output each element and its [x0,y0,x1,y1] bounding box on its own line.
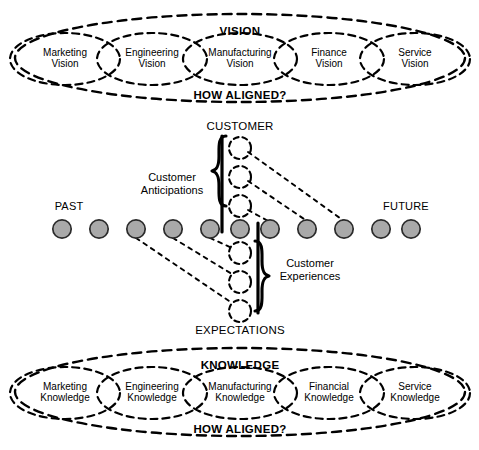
anticipation-node-3[interactable] [229,195,251,217]
timeline-node-9[interactable] [335,220,353,238]
experience-node-1[interactable] [229,242,251,264]
customer-anticipations-line1: Customer [148,171,196,183]
vision-node-label-finance: Finance Vision [311,48,347,70]
customer-anticipations-label: Customer Anticipations [141,171,203,196]
experience-node-3[interactable] [229,300,251,322]
anticipation-connector-1 [248,152,344,221]
vision-how-aligned-label: HOW ALIGNED? [193,89,286,101]
knowledge-node-label-marketing: Marketing Knowledge [40,382,89,404]
vision-node-line1-finance: Finance [311,47,347,58]
diagram-root: VISION Marketing Vision Engineering Visi… [0,0,479,450]
vision-title: VISION [220,25,261,37]
customer-anticipations-line2: Anticipations [141,184,203,196]
vision-node-line2-service: Vision [401,58,428,69]
knowledge-node-line1-service: Service [398,381,431,392]
knowledge-title: KNOWLEDGE [201,359,280,371]
knowledge-node-line1-engineering: Engineering [125,381,178,392]
customer-axis-label: CUSTOMER [206,120,273,132]
vision-node-line1-manufacturing: Manufacturing [208,47,271,58]
experience-nodes [229,242,251,322]
anticipation-node-2[interactable] [229,166,251,188]
vision-node-line2-engineering: Vision [138,58,165,69]
center-group [53,136,420,322]
future-label: FUTURE [383,201,429,213]
vision-node-line2-manufacturing: Vision [226,58,253,69]
customer-experiences-label: Customer Experiences [280,257,341,282]
vision-node-label-engineering: Engineering Vision [125,48,178,70]
knowledge-node-label-service: Service Knowledge [390,382,439,404]
vision-node-label-manufacturing: Manufacturing Vision [208,48,271,70]
knowledge-node-line1-marketing: Marketing [43,381,87,392]
knowledge-node-label-manufacturing: Manufacturing Knowledge [208,382,271,404]
timeline-node-8[interactable] [298,220,316,238]
knowledge-node-label-engineering: Engineering Knowledge [125,382,178,404]
knowledge-node-line1-financial: Financial [309,381,349,392]
experience-connector-1 [136,238,232,303]
timeline-node-1[interactable] [53,220,71,238]
experience-connector-3 [210,238,232,248]
expectations-axis-label: EXPECTATIONS [195,324,285,336]
knowledge-how-aligned-label: HOW ALIGNED? [193,423,286,435]
anticipations-brace [212,136,226,206]
timeline-node-10[interactable] [372,220,390,238]
timeline-node-6[interactable] [231,220,249,238]
timeline-node-11[interactable] [402,220,420,238]
anticipation-nodes [229,137,251,217]
vision-node-line2-marketing: Vision [51,58,78,69]
timeline-node-4[interactable] [164,220,182,238]
anticipation-node-1[interactable] [229,137,251,159]
knowledge-node-line2-marketing: Knowledge [40,392,89,403]
vision-node-label-marketing: Marketing Vision [43,48,87,70]
timeline-node-2[interactable] [90,220,108,238]
timeline-node-5[interactable] [201,220,219,238]
timeline-nodes [53,220,420,238]
knowledge-node-line2-financial: Knowledge [304,392,353,403]
experience-node-2[interactable] [229,271,251,293]
knowledge-node-line2-manufacturing: Knowledge [215,392,264,403]
customer-experiences-line1: Customer [286,257,334,269]
knowledge-node-line1-manufacturing: Manufacturing [208,381,271,392]
knowledge-node-label-financial: Financial Knowledge [304,382,353,404]
experience-connectors [136,238,232,303]
customer-experiences-line2: Experiences [280,270,341,282]
knowledge-node-line2-engineering: Knowledge [127,392,176,403]
knowledge-node-line2-service: Knowledge [390,392,439,403]
vision-node-label-service: Service Vision [398,48,431,70]
vision-node-line2-finance: Vision [315,58,342,69]
vision-node-line1-engineering: Engineering [125,47,178,58]
timeline-node-7[interactable] [261,220,279,238]
anticipation-connectors [248,152,344,222]
timeline-node-3[interactable] [127,220,145,238]
past-label: PAST [55,201,84,213]
vision-node-line1-marketing: Marketing [43,47,87,58]
vision-node-line1-service: Service [398,47,431,58]
